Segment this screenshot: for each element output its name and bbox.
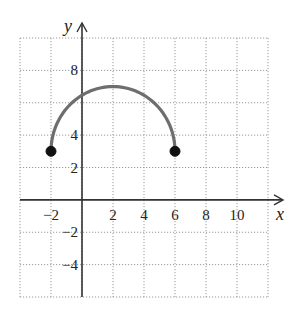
- y-tick-label: 2: [71, 160, 79, 176]
- endpoints: [46, 146, 180, 156]
- axes: [20, 23, 283, 297]
- x-tick-labels: −2246810: [43, 207, 244, 223]
- grid: [20, 38, 268, 297]
- x-axis-label: x: [275, 204, 284, 224]
- coordinate-plane: −2246810 842−2−4 x y: [0, 0, 294, 318]
- x-tick-label: −2: [43, 207, 59, 223]
- y-tick-label: 4: [71, 127, 79, 143]
- x-tick-label: 8: [202, 207, 210, 223]
- y-tick-labels: 842−2−4: [62, 62, 78, 272]
- y-tick-label: −4: [62, 257, 78, 273]
- y-tick-label: 8: [71, 62, 79, 78]
- y-tick-label: −2: [62, 224, 78, 240]
- y-axis-label: y: [62, 16, 72, 36]
- x-tick-label: 6: [171, 207, 179, 223]
- x-tick-label: 4: [140, 207, 148, 223]
- endpoint-dot: [170, 146, 180, 156]
- x-tick-label: 10: [230, 207, 245, 223]
- x-tick-label: 2: [109, 207, 117, 223]
- endpoint-dot: [46, 146, 56, 156]
